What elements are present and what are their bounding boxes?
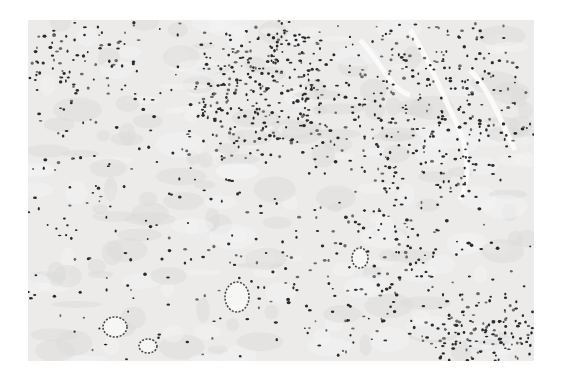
tissue-section-image xyxy=(28,20,534,361)
histology-micrograph xyxy=(28,20,534,361)
